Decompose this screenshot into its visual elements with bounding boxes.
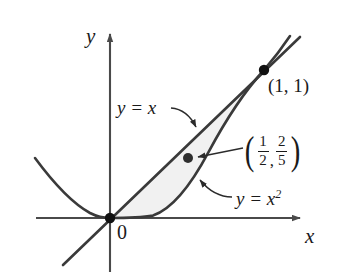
fraction-one-half: 1 2 [257,134,269,169]
point-origin-dot [105,213,115,223]
fraction-numerator: 2 [276,134,288,150]
y-axis-label: y [86,26,95,47]
parabola-exponent: 2 [275,187,281,201]
fraction-comma: , [270,152,274,171]
curve-label-line: y = x [117,98,156,117]
point-label-centroid: ( 1 2 , 2 5 ) [243,131,302,171]
curve-label-parabola: y = x2 [236,188,281,208]
callout-arrow-line [171,108,196,127]
fraction-numerator: 1 [257,134,269,150]
point-label-one-one: (1, 1) [268,76,309,95]
point-centroid-dot [183,153,193,163]
right-paren: ) [290,135,300,168]
callout-arrow-parabola [200,180,232,197]
fraction-denominator: 2 [257,153,269,169]
math-figure: y x 0 y = x y = x2 (1, 1) ( 1 2 , 2 5 ) [0,0,338,278]
fraction-two-fifths: 2 5 [276,134,288,169]
point-one-one-dot [259,65,269,75]
parabola-rhs: x [267,188,275,209]
fraction-denominator: 5 [276,153,288,169]
left-paren: ( [245,135,255,168]
parabola-equals: = [244,188,266,209]
x-axis-label: x [305,226,314,247]
origin-label: 0 [117,222,127,242]
